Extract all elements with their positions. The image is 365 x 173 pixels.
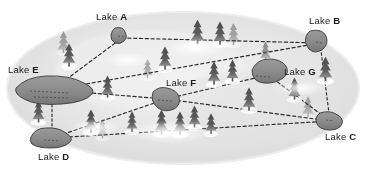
lake-label-D: Lake D <box>38 152 69 162</box>
lake-label-B: Lake B <box>309 16 340 26</box>
lake-label-A: Lake A <box>96 12 127 22</box>
lake-label-E: Lake E <box>8 65 39 75</box>
lake-shape-A <box>111 28 126 44</box>
lake-network-diagram: Lake A Lake B Lake C Lake D Lake E Lake … <box>0 0 365 173</box>
lake-label-G: Lake G <box>284 67 316 77</box>
lake-label-C: Lake C <box>325 132 356 142</box>
lake-label-F: Lake F <box>166 78 196 88</box>
lake-shape-B <box>305 30 327 52</box>
